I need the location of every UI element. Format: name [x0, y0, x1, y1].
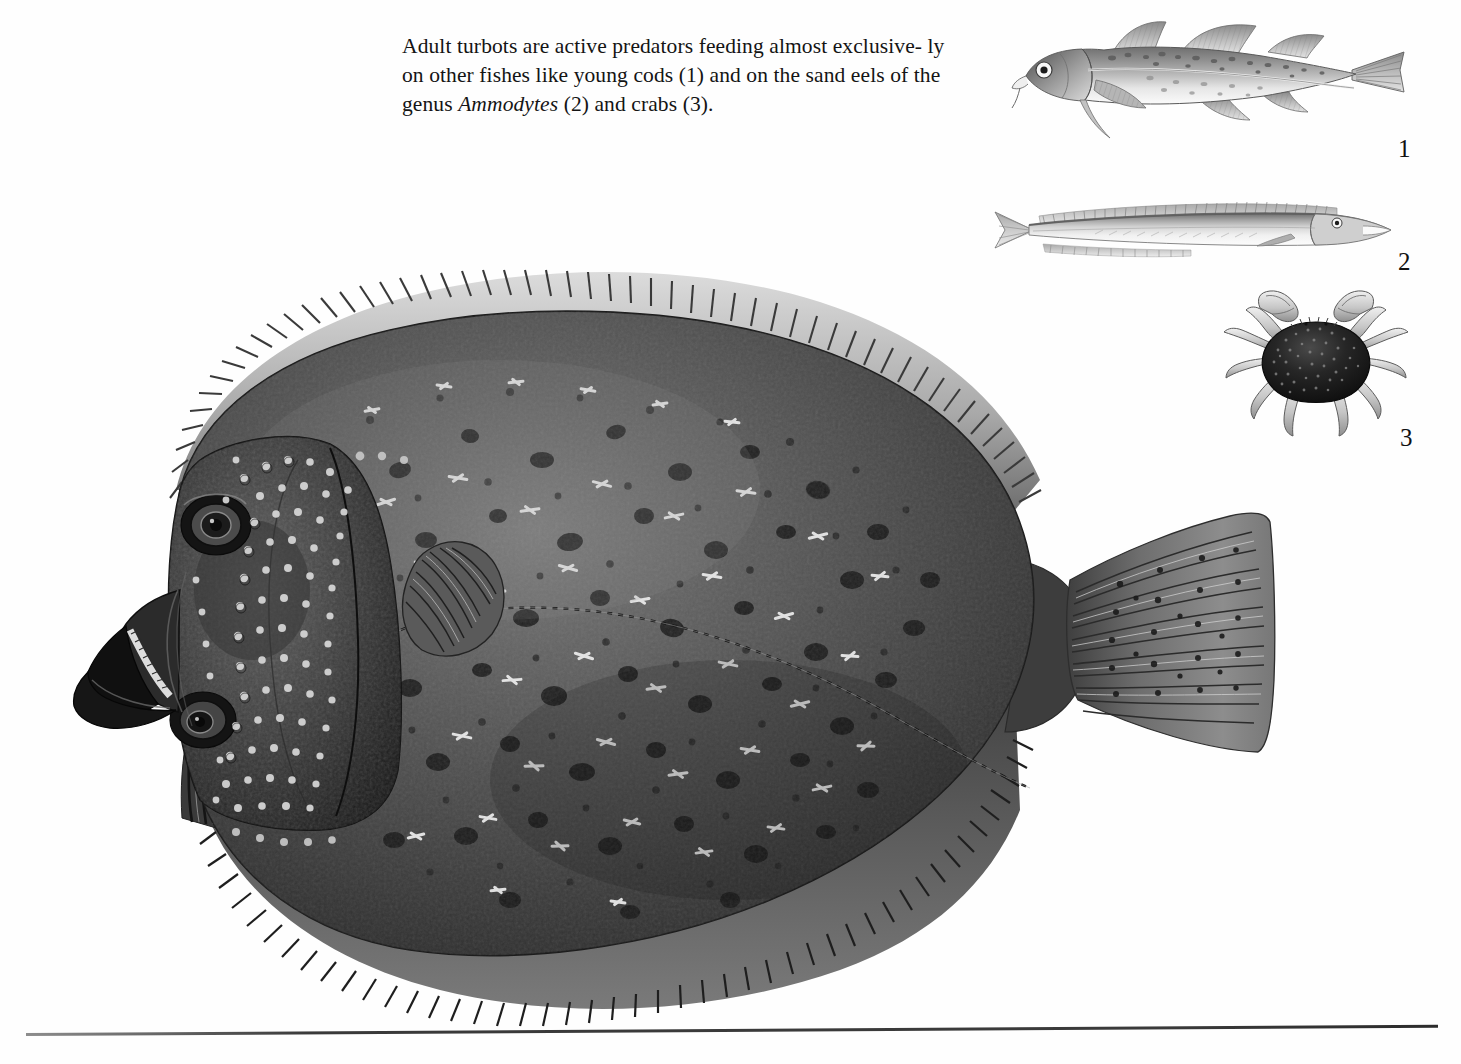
figure-label-1: 1: [1398, 136, 1411, 161]
cod-head: [1026, 49, 1092, 101]
plate-page: Adult turbots are active predators feedi…: [0, 0, 1461, 1064]
figure-young-cod: [1000, 8, 1420, 148]
caption-genus-ammodytes: Ammodytes: [458, 92, 558, 116]
turbot-upper-eye: [181, 494, 251, 555]
caption-line-3-suffix: (2) and crabs (3).: [558, 92, 713, 116]
sandeel-pupil: [1335, 221, 1339, 225]
cod-chin-barbel: [1012, 88, 1020, 108]
turbot-caudal-fin: [1067, 513, 1275, 752]
crab-eye-right: [1324, 322, 1327, 325]
cod-pelvic-fin: [1080, 100, 1110, 138]
caption-text: Adult turbots are active predators feedi…: [402, 32, 964, 119]
turbot-lower-eye: [170, 692, 236, 748]
cod-pupil: [1040, 66, 1047, 73]
turbot-illustration: [30, 160, 1290, 1030]
figure-label-3: 3: [1400, 425, 1413, 450]
turbot-head: [74, 437, 408, 831]
caption-line-1: Adult turbots are active predators feedi…: [402, 34, 922, 58]
figure-turbot: [30, 160, 1290, 1030]
cod-illustration: [1000, 8, 1420, 148]
sandeel-mouth: [1363, 226, 1391, 235]
turbot-caudal-region: [1005, 513, 1275, 752]
cod-mouth: [1012, 76, 1028, 89]
figure-label-2: 2: [1398, 249, 1411, 274]
crab-eye-left: [1304, 322, 1307, 325]
